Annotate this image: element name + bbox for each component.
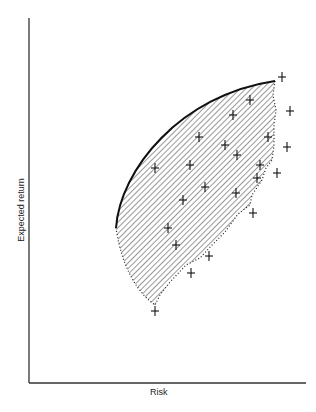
plus-marker bbox=[286, 106, 294, 116]
plus-marker bbox=[273, 168, 281, 178]
y-axis-label: Expected return bbox=[16, 175, 26, 245]
plus-marker bbox=[187, 268, 195, 278]
x-axis-label: Risk bbox=[150, 387, 168, 397]
plus-marker bbox=[278, 72, 286, 82]
chart-canvas bbox=[0, 0, 316, 412]
plus-marker bbox=[249, 208, 257, 218]
feasible-region bbox=[116, 81, 276, 305]
plus-marker bbox=[283, 142, 291, 152]
plus-marker bbox=[151, 306, 159, 316]
plus-marker bbox=[205, 251, 213, 261]
